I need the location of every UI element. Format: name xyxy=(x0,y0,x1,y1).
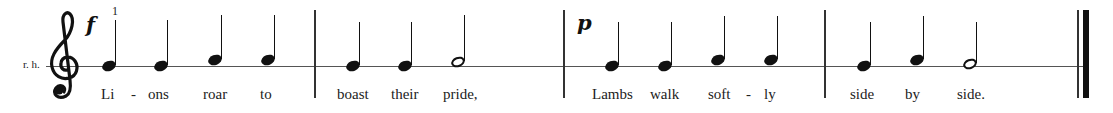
note-stem xyxy=(464,15,466,61)
note-stem xyxy=(976,22,978,63)
lyric-syllable: ly xyxy=(764,86,776,103)
note-stem xyxy=(671,22,673,65)
final-barline-thin xyxy=(1077,10,1079,98)
note-stem xyxy=(115,20,117,65)
lyric-hyphen: - xyxy=(131,86,136,103)
lyric-syllable: their xyxy=(391,86,419,103)
hand-label: r. h. xyxy=(23,58,40,70)
lyric-syllable: to xyxy=(260,86,272,103)
lyric-syllable: soft xyxy=(708,86,731,103)
barline xyxy=(824,10,826,98)
lyric-syllable: boast xyxy=(337,86,369,103)
lyric-syllable: side. xyxy=(957,86,985,103)
lyric-syllable: walk xyxy=(650,86,679,103)
lyric-syllable: pride, xyxy=(443,86,478,103)
barline xyxy=(314,10,316,98)
final-barline-thick xyxy=(1083,10,1089,98)
note-stem xyxy=(870,22,872,65)
lyric-syllable: by xyxy=(905,86,920,103)
dynamic-forte: f xyxy=(86,12,95,37)
treble-clef-icon xyxy=(48,10,82,100)
lyric-syllable: side xyxy=(850,86,874,103)
note-stem xyxy=(167,20,169,65)
note-stem xyxy=(923,16,925,59)
lyric-syllable: Lambs xyxy=(592,86,633,103)
note-stem xyxy=(724,16,726,59)
note-stem xyxy=(777,16,779,59)
lyric-hyphen: - xyxy=(746,86,751,103)
note-stem xyxy=(618,22,620,65)
note-stem xyxy=(411,22,413,65)
note-stem xyxy=(359,22,361,65)
barline xyxy=(563,10,565,98)
lyric-syllable: roar xyxy=(203,86,227,103)
lyric-syllable: ons xyxy=(148,86,169,103)
note-stem xyxy=(221,15,223,59)
dynamic-piano: p xyxy=(577,10,592,35)
lyric-syllable: Li xyxy=(101,86,114,103)
note-stem xyxy=(274,15,276,59)
fingering-number: 1 xyxy=(112,4,118,19)
staff-line xyxy=(46,66,1084,67)
